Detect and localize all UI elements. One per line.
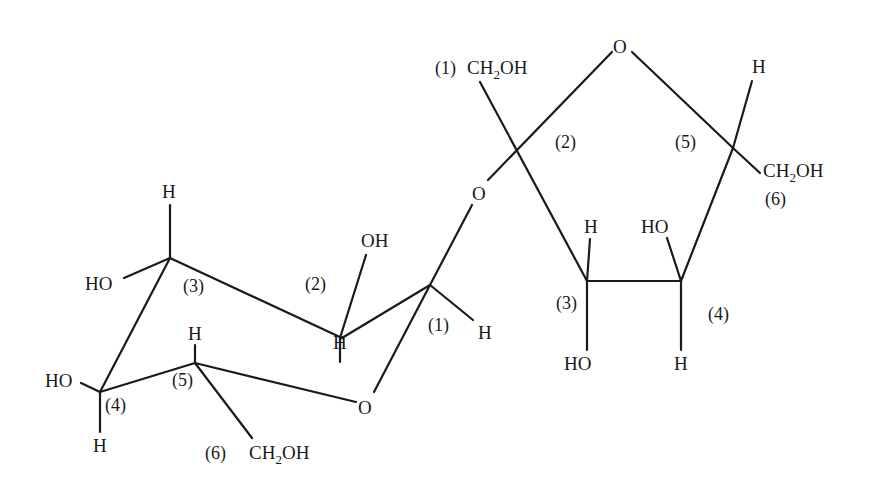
fructose-ring-o-label: O [613,36,627,57]
glucose-ring-bonds [81,205,473,438]
glucose-c1-number: (1) [428,315,449,336]
bond-c4-oh [667,238,681,281]
fructose-c6-number: (6) [765,189,786,210]
glucose-c4-ho-label: HO [45,370,72,391]
fructose-c5-h-label: H [752,56,766,77]
fructose-c4-h-label: H [674,353,688,374]
glucose-c4-h-label: H [93,435,107,456]
fructose-c4-number: (4) [708,304,729,325]
glucose-c6-ch2oh-label: CH2OH [249,442,310,467]
fructose-c3-number: (3) [556,293,577,314]
bond-c3-h [587,239,590,281]
sucrose-structure-diagram: H HO (3) OH (2) H (1) H O H (5) HO (4) H… [0,0,878,490]
bond-c5-c4 [681,148,733,281]
bond-c1-bridge-o [430,205,472,285]
glucose-c6-number: (6) [205,443,226,464]
glucose-c5-number: (5) [172,370,193,391]
glucose-c3-h-label: H [162,181,176,202]
glucose-c5-h-label: H [188,323,202,344]
glucose-ring-o-label: O [358,397,372,418]
fructose-c2-number: (2) [555,132,576,153]
bond-c5-extend [733,148,760,173]
glucose-c3-ho-label: HO [85,273,112,294]
fructose-c6-ch2oh-label: CH2OH [763,160,824,185]
fructose-labels: (1) CH2OH (2) O H (5) CH2OH (6) H (3) HO… [435,36,824,374]
bond-c5-h [733,81,752,148]
bond-c4-oh [81,383,100,392]
glucose-c2-h-label: H [333,332,347,353]
glucose-c2-number: (2) [305,274,326,295]
glucose-c1-h-label: H [478,322,492,343]
glycosidic-o-label: O [472,183,486,204]
glucose-labels: H HO (3) OH (2) H (1) H O H (5) HO (4) H… [45,181,492,467]
glucose-c2-oh-label: OH [361,230,389,251]
fructose-c1-number: (1) [435,58,456,79]
glucose-c3-number: (3) [183,276,204,297]
bond-c3-c2-c1 [480,82,587,281]
fructose-c1-ch2oh-label: CH2OH [467,57,528,82]
fructose-c4-ho-label: HO [641,216,668,237]
fructose-c5-number: (5) [675,132,696,153]
bond-c3-oh [124,258,170,278]
fructose-c3-h-label: H [584,216,598,237]
fructose-c3-ho-label: HO [564,353,591,374]
glucose-c4-number: (4) [105,395,126,416]
